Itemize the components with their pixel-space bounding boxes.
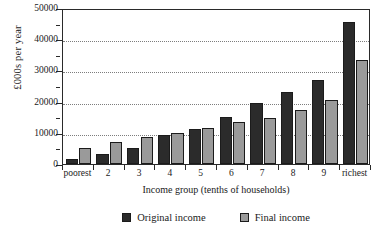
y-axis-title: £000s per year bbox=[12, 3, 23, 113]
x-axis-tick-label: 8 bbox=[291, 168, 296, 178]
legend-swatch-final-income bbox=[240, 213, 249, 222]
bar-final-income bbox=[141, 137, 153, 164]
legend-item-original-income: Original income bbox=[122, 212, 206, 223]
bar-series-container bbox=[63, 10, 369, 164]
x-axis-tick-label: 9 bbox=[321, 168, 326, 178]
bar-original-income bbox=[250, 103, 262, 164]
legend-label-final-income: Final income bbox=[255, 212, 310, 223]
bar-original-income bbox=[66, 159, 78, 164]
legend-item-final-income: Final income bbox=[240, 212, 310, 223]
x-axis-tick-label: poorest bbox=[63, 168, 91, 178]
bar-final-income bbox=[110, 142, 122, 164]
x-axis-tick-label: 2 bbox=[106, 168, 111, 178]
y-axis-tick-label: 40000 bbox=[12, 35, 58, 45]
x-axis-title: Income group (tenths of households) bbox=[62, 184, 370, 195]
legend-swatch-original-income bbox=[122, 213, 131, 222]
bar-final-income bbox=[202, 128, 214, 164]
x-axis-tick bbox=[93, 165, 94, 170]
y-axis-minor-tick bbox=[56, 118, 60, 119]
bar-original-income bbox=[281, 92, 293, 164]
x-axis-tick-label: 3 bbox=[137, 168, 142, 178]
x-axis-tick bbox=[278, 165, 279, 170]
y-axis-tick-label: 0 bbox=[12, 160, 58, 170]
y-axis-minor-tick bbox=[56, 87, 60, 88]
bar-final-income bbox=[264, 118, 276, 164]
bar-original-income bbox=[96, 154, 108, 164]
x-axis-tick bbox=[370, 165, 371, 170]
bar-final-income bbox=[356, 60, 368, 164]
x-axis-tick-label: 4 bbox=[167, 168, 172, 178]
x-axis-tick-label: 6 bbox=[229, 168, 234, 178]
y-axis-tick-label: 30000 bbox=[12, 66, 58, 76]
x-axis-tick bbox=[308, 165, 309, 170]
x-axis-tick bbox=[339, 165, 340, 170]
x-axis-tick bbox=[185, 165, 186, 170]
y-axis-minor-tick bbox=[56, 56, 60, 57]
y-axis-minor-tick bbox=[56, 25, 60, 26]
x-axis-tick-label: richest bbox=[342, 168, 367, 178]
legend-label-original-income: Original income bbox=[137, 212, 206, 223]
x-axis-tick bbox=[216, 165, 217, 170]
x-axis-tick bbox=[154, 165, 155, 170]
plot-area bbox=[62, 9, 370, 165]
x-axis-tick bbox=[247, 165, 248, 170]
bar-original-income bbox=[343, 22, 355, 164]
bar-final-income bbox=[233, 122, 245, 164]
y-axis-tick-label: 20000 bbox=[12, 98, 58, 108]
bar-chart: £000s per year 0100002000030000400005000… bbox=[0, 0, 376, 240]
bar-final-income bbox=[295, 110, 307, 164]
bar-original-income bbox=[127, 148, 139, 164]
y-axis-minor-tick bbox=[56, 149, 60, 150]
bar-original-income bbox=[189, 129, 201, 164]
bar-final-income bbox=[325, 100, 337, 164]
bar-final-income bbox=[79, 148, 91, 164]
bar-original-income bbox=[220, 117, 232, 164]
bar-original-income bbox=[312, 80, 324, 164]
chart-legend: Original income Final income bbox=[62, 212, 370, 223]
bar-final-income bbox=[171, 133, 183, 164]
y-axis-tick-label: 10000 bbox=[12, 129, 58, 139]
x-axis-tick bbox=[124, 165, 125, 170]
bar-original-income bbox=[158, 135, 170, 164]
x-axis-tick-label: 7 bbox=[260, 168, 265, 178]
y-axis-tick-label: 50000 bbox=[12, 4, 58, 14]
x-axis-tick-label: 5 bbox=[198, 168, 203, 178]
